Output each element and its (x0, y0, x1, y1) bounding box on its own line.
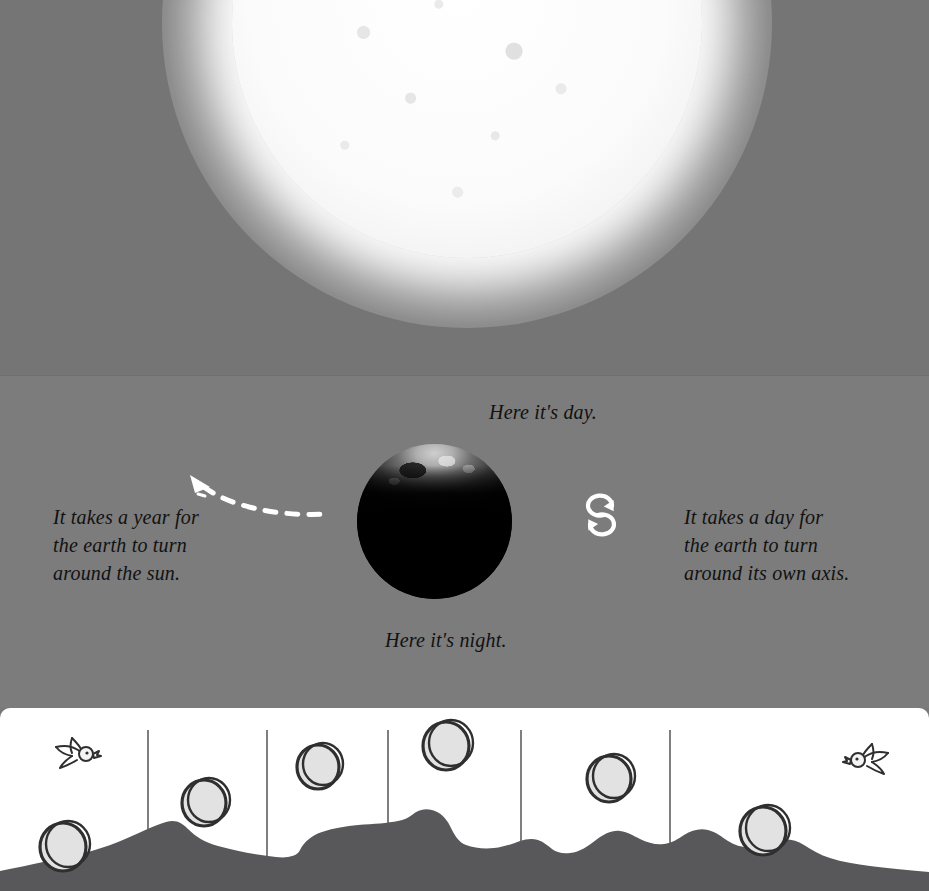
caption-axis-line-2: the earth to turn (684, 531, 874, 559)
caption-axis-line-1: It takes a day for (684, 503, 874, 531)
caption-year-block: It takes a year for the earth to turn ar… (53, 503, 233, 587)
sun-arc-circle (297, 743, 343, 789)
ground-scene-panel (0, 708, 929, 891)
earth-day-night-terminator (357, 444, 512, 599)
caption-year-line-3: around the sun. (53, 559, 233, 587)
rotation-arrows-icon (580, 492, 622, 538)
caption-here-is-night: Here it's night. (385, 626, 507, 654)
earth-globe (357, 444, 512, 599)
caption-axis-block: It takes a day for the earth to turn aro… (684, 503, 874, 587)
caption-axis-line-3: around its own axis. (684, 559, 874, 587)
bird-left-icon (56, 738, 101, 768)
sun-arc-circle (182, 778, 230, 826)
sun-arc-circle (423, 720, 473, 770)
space-scene-panel: Here it's day. Here it's night. It takes… (0, 0, 929, 708)
illustration-page: Here it's day. Here it's night. It takes… (0, 0, 929, 891)
sun (232, 0, 702, 258)
sun-arc-circle (587, 754, 635, 802)
paper-seam-line (0, 375, 929, 376)
caption-year-line-2: the earth to turn (53, 531, 233, 559)
bird-right-icon (843, 744, 888, 774)
sun-arc-diagram (0, 708, 929, 891)
caption-year-line-1: It takes a year for (53, 503, 233, 531)
caption-here-is-day: Here it's day. (489, 398, 597, 426)
